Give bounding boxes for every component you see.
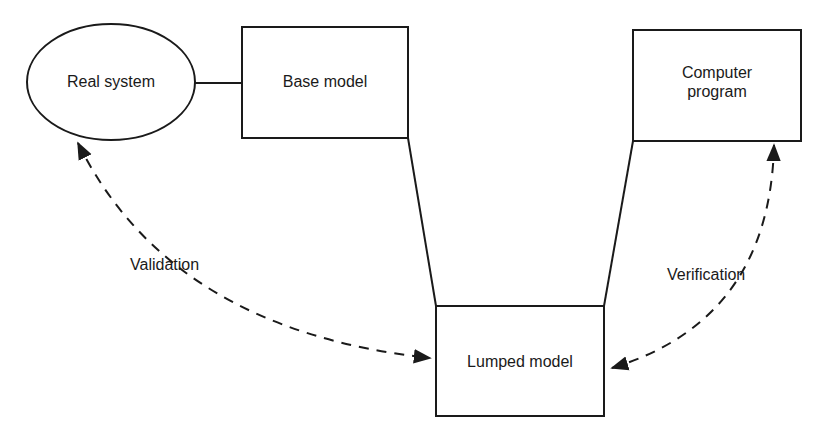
computer-program-label-line2: program (633, 82, 801, 101)
connector-base-to-lumped (408, 138, 436, 306)
lumped-model-label: Lumped model (436, 352, 604, 371)
validation-arrow (78, 143, 430, 358)
verification-label: Verification (667, 265, 787, 284)
validation-label: Validation (130, 255, 250, 274)
real-system-label: Real system (27, 72, 195, 91)
computer-program-label: Computer program (633, 63, 801, 101)
connector-program-to-lumped (604, 141, 633, 306)
base-model-label: Base model (242, 72, 408, 91)
verification-arrow (612, 145, 774, 368)
computer-program-label-line1: Computer (633, 63, 801, 82)
